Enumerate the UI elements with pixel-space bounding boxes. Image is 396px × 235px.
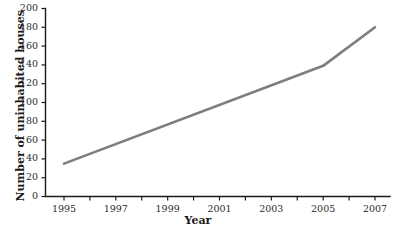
line-chart: Number of uninhabited houses Year 020406… (0, 0, 396, 235)
data-series-group (64, 27, 375, 163)
axis-lines (46, 9, 391, 197)
plot-area (0, 0, 396, 235)
